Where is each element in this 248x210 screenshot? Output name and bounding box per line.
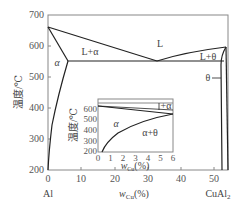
x-axis-title: wCu(%) bbox=[119, 188, 149, 201]
inset-y-tick-500: 500 bbox=[84, 114, 98, 124]
y-tick-600: 600 bbox=[29, 40, 44, 51]
y-tick-300: 300 bbox=[29, 133, 44, 144]
inset-x-tick-0: 0 bbox=[96, 153, 101, 163]
x-tick-30: 30 bbox=[143, 173, 153, 184]
region-L-theta: L+θ bbox=[200, 51, 217, 62]
y-tick-500: 500 bbox=[29, 71, 44, 82]
theta-left-boundary bbox=[221, 47, 226, 170]
inset-y-axis-title: 温度/℃ bbox=[67, 108, 79, 142]
x-tick-50: 50 bbox=[209, 173, 219, 184]
inset-x-tick-5: 5 bbox=[158, 153, 163, 163]
inset-x-axis-title: wCu(%) bbox=[121, 160, 150, 172]
region-alpha: α bbox=[54, 57, 60, 68]
y-tick-400: 400 bbox=[29, 102, 44, 113]
inset-x-tick-1: 1 bbox=[108, 153, 113, 163]
inset-x-tick-6: 6 bbox=[171, 153, 176, 163]
inset-region-L-alpha: +α bbox=[161, 100, 173, 111]
x-tick-40: 40 bbox=[176, 173, 186, 184]
inset-y-tick-300: 300 bbox=[84, 136, 98, 146]
region-L-alpha: L+α bbox=[82, 46, 100, 57]
x-tick-0: 0 bbox=[46, 173, 51, 184]
inset-y-tick-600: 600 bbox=[84, 104, 98, 114]
inset-region-alpha-theta: α+θ bbox=[142, 127, 158, 138]
y-axis-title: 温度/℃ bbox=[12, 75, 24, 109]
inset-y-tick-400: 400 bbox=[84, 125, 98, 135]
x-tick-10: 10 bbox=[76, 173, 86, 184]
region-L: L bbox=[157, 38, 163, 49]
inset-plot: 600 500 400 300 200 温度/℃ 0 1 2 3 4 5 6 w… bbox=[67, 97, 178, 172]
inset-region-alpha: α bbox=[113, 118, 119, 129]
cual2-label: CuAl2 bbox=[205, 188, 231, 201]
y-tick-200: 200 bbox=[29, 164, 44, 175]
phase-diagram: 700 600 500 400 300 200 温度/℃ 0 10 20 30 … bbox=[0, 0, 248, 210]
region-theta: θ bbox=[206, 72, 211, 83]
al-label: Al bbox=[43, 188, 53, 199]
x-tick-20: 20 bbox=[110, 173, 120, 184]
y-tick-700: 700 bbox=[29, 9, 44, 20]
